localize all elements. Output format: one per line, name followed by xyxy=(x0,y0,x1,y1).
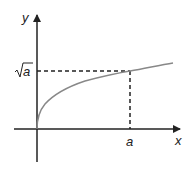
y-tick-label-sqrt-a: a xyxy=(15,63,33,79)
x-tick-label-a: a xyxy=(126,134,133,149)
sqrt-curve xyxy=(37,63,173,129)
sqrt-graph: y x a a xyxy=(0,0,192,173)
x-axis-label: x xyxy=(174,133,182,148)
svg-text:a: a xyxy=(23,64,30,79)
y-axis-label: y xyxy=(21,10,30,25)
